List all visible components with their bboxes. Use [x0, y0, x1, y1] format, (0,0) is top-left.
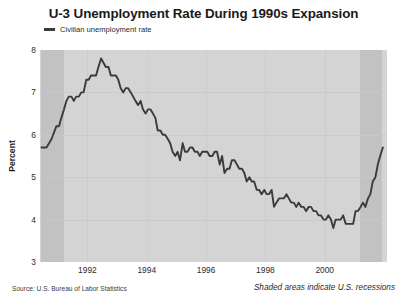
- plot-area: [40, 50, 387, 262]
- recession-note: Shaded areas indicate U.S. recessions: [254, 283, 395, 292]
- x-tick-2000: 2000: [315, 265, 334, 275]
- x-tick-1994: 1994: [137, 265, 156, 275]
- y-tick-5: 5: [2, 172, 36, 182]
- y-tick-7: 7: [2, 87, 36, 97]
- y-tick-4: 4: [2, 215, 36, 225]
- legend-label-civilian-unemployment-rate: Civilian unemployment rate: [60, 25, 152, 34]
- y-tick-6: 6: [2, 130, 36, 140]
- chart-legend: Civilian unemployment rate: [44, 25, 152, 34]
- legend-line-swatch: [44, 28, 55, 31]
- chart-title: U-3 Unemployment Rate During 1990s Expan…: [0, 6, 407, 21]
- x-tick-1996: 1996: [197, 265, 216, 275]
- chart-figure: U-3 Unemployment Rate During 1990s Expan…: [0, 0, 407, 308]
- y-axis-ticks: 345678: [0, 0, 36, 308]
- series-line-civilian-unemployment-rate: [40, 50, 387, 262]
- x-tick-1998: 1998: [256, 265, 275, 275]
- source-note: Source: U.S. Bureau of Labor Statistics: [12, 285, 127, 292]
- x-tick-1992: 1992: [78, 265, 97, 275]
- y-tick-8: 8: [2, 45, 36, 55]
- x-axis-ticks: 19921994199619982000: [0, 265, 407, 279]
